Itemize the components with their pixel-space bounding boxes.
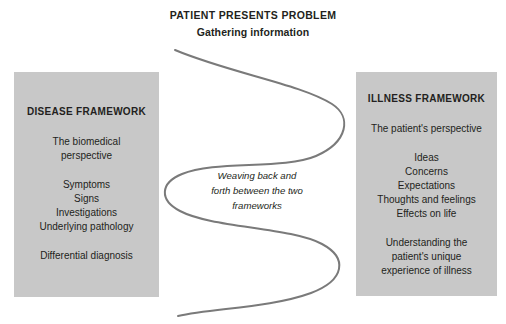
disease-framework-title: DISEASE FRAMEWORK <box>14 105 159 118</box>
framework-diagram: PATIENT PRESENTS PROBLEM Gathering infor… <box>0 0 506 324</box>
list-item: Concerns <box>356 165 497 179</box>
illness-framework-lead: The patient's perspective <box>356 122 497 136</box>
center-caption-line2: forth between the two <box>183 183 331 198</box>
illness-framework-note-line1: Understanding the <box>356 236 497 250</box>
illness-framework-list: Ideas Concerns Expectations Thoughts and… <box>356 151 497 221</box>
disease-framework-lead-line2: perspective <box>14 149 159 163</box>
disease-framework-panel: DISEASE FRAMEWORK The biomedical perspec… <box>14 72 159 297</box>
disease-framework-note: Differential diagnosis <box>14 249 159 263</box>
illness-framework-note: Understanding the patient's unique exper… <box>356 236 497 278</box>
list-item: Underlying pathology <box>14 220 159 234</box>
list-item: Signs <box>14 192 159 206</box>
illness-framework-note-line3: experience of illness <box>356 264 497 278</box>
center-caption: Weaving back and forth between the two f… <box>183 168 331 213</box>
center-caption-line3: frameworks <box>183 198 331 213</box>
disease-framework-list: Symptoms Signs Investigations Underlying… <box>14 178 159 234</box>
center-caption-line1: Weaving back and <box>183 168 331 183</box>
list-item: Effects on life <box>356 207 497 221</box>
list-item: Ideas <box>356 151 497 165</box>
list-item: Symptoms <box>14 178 159 192</box>
illness-framework-panel: ILLNESS FRAMEWORK The patient's perspect… <box>356 72 497 296</box>
disease-framework-lead: The biomedical perspective <box>14 135 159 163</box>
list-item: Expectations <box>356 179 497 193</box>
illness-framework-note-line2: patient's unique <box>356 250 497 264</box>
disease-framework-lead-line1: The biomedical <box>14 135 159 149</box>
list-item: Investigations <box>14 206 159 220</box>
illness-framework-title: ILLNESS FRAMEWORK <box>356 92 497 105</box>
list-item: Thoughts and feelings <box>356 193 497 207</box>
